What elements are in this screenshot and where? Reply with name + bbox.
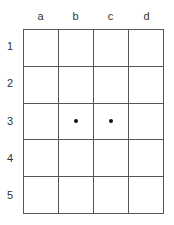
cell-c2 [93,66,128,103]
cell-d1 [128,29,163,66]
cell-b3 [58,103,93,140]
row-label-2: 2 [4,77,16,89]
cell-a2 [23,66,58,103]
cell-c5 [93,176,128,213]
cell-d5 [128,176,163,213]
cell-d3 [128,103,163,140]
cell-b2 [58,66,93,103]
row-label-5: 5 [4,189,16,201]
cell-a3 [23,103,58,140]
cell-a4 [23,139,58,176]
column-label-b: b [58,10,93,22]
dot-marker [109,119,113,123]
cell-c1 [93,29,128,66]
row-label-3: 3 [4,115,16,127]
row-label-4: 4 [4,152,16,164]
grid [23,29,164,214]
cell-b1 [58,29,93,66]
column-label-d: d [129,10,164,22]
column-label-a: a [23,10,58,22]
cell-b4 [58,139,93,176]
cell-d4 [128,139,163,176]
row-label-1: 1 [4,40,16,52]
cell-d2 [128,66,163,103]
cell-c4 [93,139,128,176]
cell-c3 [93,103,128,140]
dot-marker [74,119,78,123]
cell-a5 [23,176,58,213]
cell-b5 [58,176,93,213]
column-label-c: c [93,10,128,22]
cell-a1 [23,29,58,66]
